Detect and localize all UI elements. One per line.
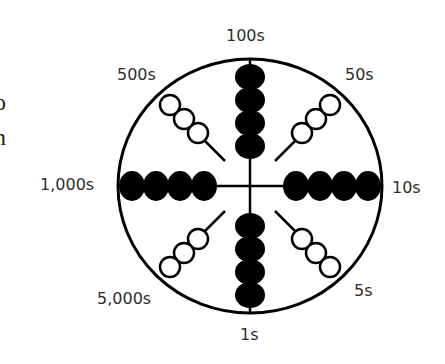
beads-1000s — [119, 171, 217, 201]
label-10s: 10s — [392, 180, 421, 196]
label-500s: 500s — [117, 67, 156, 83]
beads-1s — [235, 213, 265, 308]
beads-5000s — [160, 211, 225, 277]
label-50s: 50s — [345, 67, 374, 83]
label-5000s: 5,000s — [97, 291, 151, 307]
beads-5s — [275, 211, 340, 277]
beads-100s — [235, 64, 265, 159]
label-1000s: 1,000s — [40, 177, 94, 193]
beads-10s — [283, 171, 381, 201]
label-1s: 1s — [240, 327, 259, 343]
label-5s: 5s — [354, 283, 373, 299]
beads-500s — [160, 95, 225, 161]
beads-50s — [275, 95, 340, 161]
label-100s: 100s — [226, 28, 265, 44]
